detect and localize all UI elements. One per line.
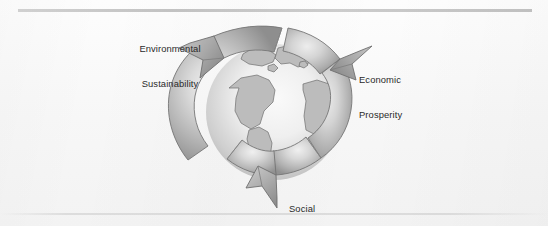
label-economic-prosperity: Economic Prosperity [359,51,455,144]
label-environmental-line1: Environmental [121,43,219,55]
label-environmental-line2: Sustainability [121,78,219,90]
label-economic-line1: Economic [359,74,455,86]
label-social-equity: Social Equity [289,180,377,226]
label-social-line1: Social [289,203,377,215]
sustainability-recycle-globe-symbol [0,0,548,226]
label-environmental-sustainability: Environmental Sustainability [121,20,219,113]
figure-container: Environmental Sustainability Economic Pr… [0,0,548,226]
label-economic-line2: Prosperity [359,109,455,121]
